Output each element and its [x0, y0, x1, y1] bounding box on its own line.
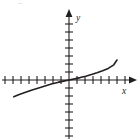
corner-mark: ..	[18, 0, 23, 6]
y-axis	[65, 9, 73, 139]
x-axis-arrow-icon	[129, 77, 137, 84]
coordinate-plane: y x ..	[0, 0, 139, 139]
graph-figure: y x ..	[0, 0, 139, 139]
x-axis-label: x	[121, 86, 127, 96]
y-axis-label: y	[75, 13, 81, 23]
y-axis-arrow-icon	[66, 9, 73, 17]
